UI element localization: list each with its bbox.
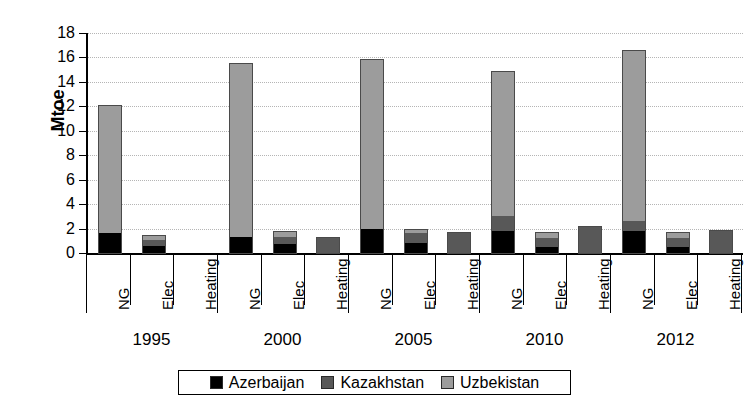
x-axis-separator [610, 255, 611, 313]
x-axis-separator [392, 255, 393, 305]
bar-segment [99, 233, 121, 253]
bar [274, 232, 296, 253]
bar [230, 64, 252, 253]
bar-segment [623, 221, 645, 231]
bar-segment [667, 238, 689, 247]
bar [317, 238, 339, 253]
bar-segment [448, 233, 470, 253]
y-axis-tick-label: 10 [39, 123, 75, 139]
bar [492, 72, 514, 253]
bar [405, 230, 427, 253]
y-axis-tick-label: 14 [39, 74, 75, 90]
y-axis-tick [79, 57, 88, 58]
x-axis-separator [523, 255, 524, 305]
y-axis-tick [79, 82, 88, 83]
y-axis-tick-label: 8 [39, 147, 75, 163]
bar-segment [405, 243, 427, 253]
y-axis-tick-label: 18 [39, 25, 75, 41]
bar-segment [99, 106, 121, 233]
x-axis-group-label: 2000 [264, 330, 302, 350]
x-axis-separator [741, 255, 742, 313]
x-axis-separator [261, 255, 262, 305]
legend-swatch-azerbaijan [210, 376, 223, 389]
bar-segment [536, 247, 558, 253]
x-axis-separator [304, 255, 305, 305]
y-axis-tick [79, 204, 88, 205]
x-axis-group-label: 2010 [526, 330, 564, 350]
bar-segment [710, 231, 732, 253]
y-axis-tick-label: 4 [39, 196, 75, 212]
y-axis-tick-label: 6 [39, 172, 75, 188]
x-axis-separator [130, 255, 131, 305]
bar [536, 233, 558, 253]
x-axis-separator [654, 255, 655, 305]
y-axis-tick [79, 180, 88, 181]
x-axis-group-label: 2012 [657, 330, 695, 350]
x-axis-group-label: 2005 [395, 330, 433, 350]
x-axis-separator [479, 255, 480, 313]
bar-segment [623, 51, 645, 221]
legend-swatch-kazakhstan [321, 376, 334, 389]
x-axis-separator [435, 255, 436, 305]
legend-swatch-uzbekistan [441, 376, 454, 389]
legend-item: Uzbekistan [441, 375, 539, 391]
bar-segment [667, 247, 689, 253]
legend-label: Kazakhstan [340, 375, 424, 391]
bar-segment [579, 227, 601, 253]
bar-segment [317, 238, 339, 253]
bar-segment [230, 237, 252, 253]
bar-segment [492, 231, 514, 253]
x-axis-separator [217, 255, 218, 313]
legend-item: Kazakhstan [321, 375, 424, 391]
x-axis-group-label: 1995 [133, 330, 171, 350]
bar-segment [536, 238, 558, 247]
y-axis-tick-label: 16 [39, 49, 75, 65]
bar-segment [623, 231, 645, 253]
x-axis-separator [566, 255, 567, 305]
bar [361, 60, 383, 253]
legend-item: Azerbaijan [210, 375, 305, 391]
chart-legend: Azerbaijan Kazakhstan Uzbekistan [178, 370, 571, 395]
legend-label: Azerbaijan [229, 375, 305, 391]
y-axis-tick-label: 2 [39, 221, 75, 237]
y-axis-tick-label: 0 [39, 245, 75, 261]
bar-segment [230, 64, 252, 238]
plot-area: 024681012141618 [86, 33, 743, 255]
y-axis-tick [79, 106, 88, 107]
bar-segment [492, 72, 514, 216]
y-axis-tick [79, 253, 88, 254]
bar [710, 231, 732, 253]
bar [667, 233, 689, 253]
legend-label: Uzbekistan [460, 375, 539, 391]
bar [579, 227, 601, 253]
y-axis-tick-label: 12 [39, 98, 75, 114]
y-axis-tick [79, 229, 88, 230]
y-axis-tick [79, 155, 88, 156]
bar-segment [143, 246, 165, 253]
bar [623, 51, 645, 253]
x-axis-separator [697, 255, 698, 305]
y-axis-tick [79, 33, 88, 34]
bar [99, 106, 121, 253]
stacked-bar-chart: Mtoe 024681012141618 NGElecHeatingNGElec… [0, 0, 747, 415]
bar-segment [405, 233, 427, 243]
bar-segment [361, 60, 383, 229]
bar-segment [274, 237, 296, 244]
bar-segment [492, 216, 514, 231]
bar-segment [274, 244, 296, 253]
bar [143, 236, 165, 253]
gridline [88, 33, 743, 34]
x-axis-separator [173, 255, 174, 305]
bar-segment [361, 229, 383, 253]
x-axis-separator [348, 255, 349, 313]
y-axis-tick [79, 131, 88, 132]
x-axis-separator [86, 255, 87, 313]
bar [448, 233, 470, 253]
